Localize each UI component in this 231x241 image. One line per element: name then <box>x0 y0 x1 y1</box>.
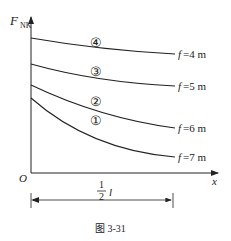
figure-caption: 图 3-31 <box>95 223 126 234</box>
x-axis-label: x <box>211 175 217 187</box>
curve-3 <box>31 64 175 86</box>
origin-label: O <box>19 172 27 184</box>
svg-text:1: 1 <box>99 179 104 190</box>
svg-text:=7 m: =7 m <box>183 151 206 163</box>
svg-text:l: l <box>109 186 112 198</box>
curve-1-marker: ① <box>90 113 102 128</box>
curve-4-label: f =4 m <box>178 48 206 60</box>
svg-text:=4 m: =4 m <box>183 48 206 60</box>
chart: F NK x O ④ ③ ② ① f =4 m f =5 m f =6 m f … <box>0 0 231 241</box>
curve-2-marker: ② <box>90 94 102 109</box>
curve-1-label: f =7 m <box>178 151 206 163</box>
curve-2 <box>31 85 175 128</box>
curve-3-marker: ③ <box>90 64 102 79</box>
y-axis-label-sub: NK <box>20 21 32 30</box>
y-axis-label: F <box>9 13 19 28</box>
dimension-arrow-left <box>31 197 39 203</box>
curve-3-label: f =5 m <box>178 80 206 92</box>
curve-2-label: f =6 m <box>178 122 206 134</box>
curve-1 <box>31 98 175 157</box>
half-span-label: 1 2 l <box>97 179 112 202</box>
svg-text:=5 m: =5 m <box>183 80 206 92</box>
svg-text:=6 m: =6 m <box>183 122 206 134</box>
curve-4-marker: ④ <box>90 35 102 50</box>
curve-4 <box>31 38 175 54</box>
